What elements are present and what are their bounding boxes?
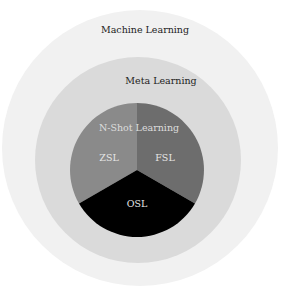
n-shot-learning-label: N-Shot Learning	[99, 122, 179, 133]
zsl-label: ZSL	[99, 152, 119, 163]
meta-learning-label: Meta Learning	[125, 75, 196, 86]
diagram: Machine Learning Meta Learning N-Shot Le…	[0, 0, 282, 291]
osl-label: OSL	[127, 198, 148, 209]
fsl-label: FSL	[155, 152, 175, 163]
machine-learning-label: Machine Learning	[101, 24, 189, 35]
